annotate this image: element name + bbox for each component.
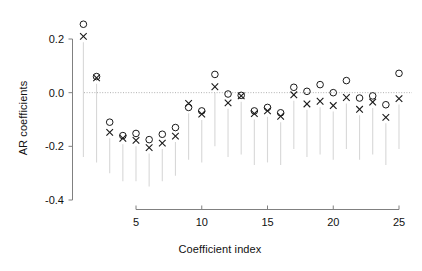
data-point-circle [172,124,179,131]
data-point-circle [304,88,311,95]
data-point-circle [343,77,350,84]
data-point-cross [356,106,363,113]
data-point-circle [317,81,324,88]
data-point-cross [383,114,390,121]
data-point-circle [159,131,166,138]
y-axis-label: AR coefficients [17,48,29,188]
data-point-cross [225,100,232,107]
x-axis-tick-label: 20 [327,216,339,228]
x-axis-tick-label: 15 [261,216,273,228]
data-point-cross [317,98,324,105]
y-axis-tick-label: -0.2 [45,140,64,152]
y-axis-tick-label: 0.0 [49,87,64,99]
data-point-cross [291,92,298,99]
x-axis: 510152025 [133,206,405,229]
error-bars-group [83,42,399,186]
data-point-cross [185,100,192,107]
data-point-circle [291,84,298,91]
data-point-circle [212,71,219,78]
data-point-circle [356,95,363,102]
data-point-cross [369,99,376,106]
y-axis-tick-label: -0.4 [45,194,64,206]
ar-coefficients-scatter-chart: AR coefficients Coefficient index 0.20.0… [0,0,422,271]
data-point-circle [369,93,376,100]
data-point-cross [343,94,350,101]
data-point-circle [383,101,390,108]
data-point-cross [198,111,205,118]
x-axis-tick-label: 25 [393,216,405,228]
data-point-cross [264,108,271,115]
data-point-cross [277,113,284,120]
y-axis: 0.20.0-0.2-0.4 [45,33,72,206]
data-point-circle [198,108,205,115]
data-point-cross [212,83,219,90]
data-point-cross [172,133,179,140]
data-point-cross [80,33,87,40]
data-point-cross [106,129,113,136]
data-point-circle [330,89,337,96]
data-point-circle [396,70,403,77]
data-point-circle [80,21,87,28]
x-axis-label: Coefficient index [160,243,280,255]
data-point-circle [264,104,271,111]
y-axis-tick-label: 0.2 [49,33,64,45]
data-point-cross [304,101,311,108]
x-axis-tick-label: 10 [196,216,208,228]
data-point-circle [93,73,100,80]
data-point-circle [133,130,140,137]
data-point-cross [146,144,153,151]
data-point-circle [225,91,232,98]
data-point-cross [396,95,403,102]
data-point-cross [133,137,140,144]
data-point-circle [277,109,284,116]
data-point-circle [106,119,113,126]
data-point-cross [159,140,166,147]
plot-canvas: 0.20.0-0.2-0.4 510152025 [0,0,422,271]
data-point-circle [146,136,153,143]
data-point-cross [330,102,337,109]
x-axis-tick-label: 5 [133,216,139,228]
